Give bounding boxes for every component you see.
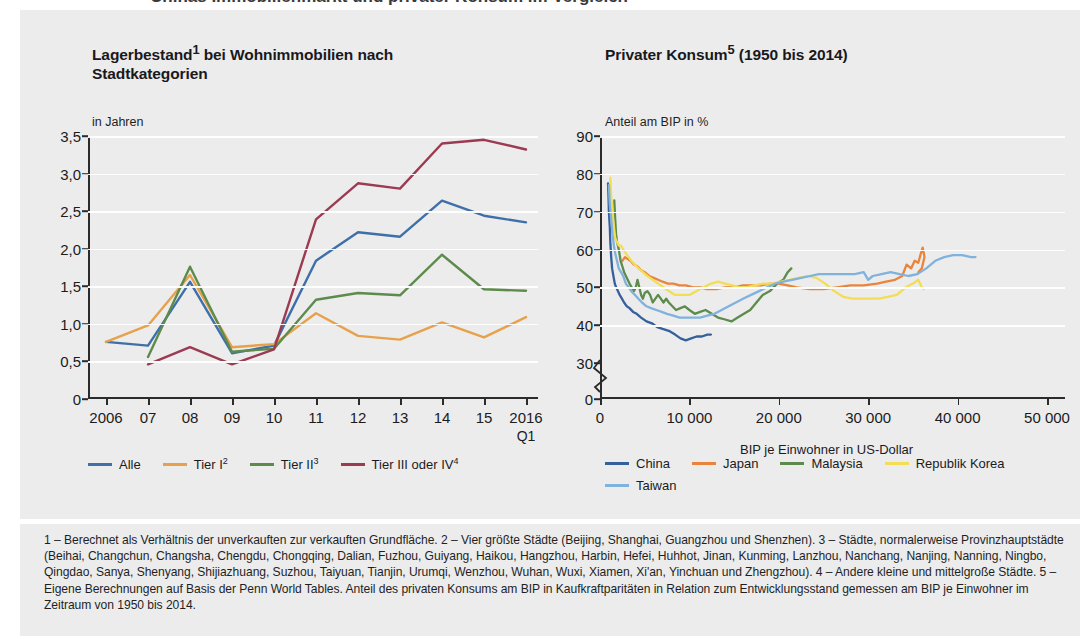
- x-tick-mark: [868, 399, 870, 405]
- legend-label: Tier I2: [194, 456, 228, 472]
- x-tick-mark: [600, 399, 602, 405]
- y-tick-label: 2,0: [60, 240, 81, 257]
- cut-off-header-remnant: Chinas Immobilienmarkt und privater Kons…: [0, 0, 1083, 8]
- x-tick-mark: [484, 399, 486, 405]
- legend-item-republikkorea[interactable]: Republik Korea: [885, 456, 1005, 471]
- legend-label: Republik Korea: [916, 456, 1005, 471]
- chart-lagerbestand: Lagerbestand1 bei Wohnimmobilien nach St…: [20, 10, 560, 522]
- gridline: [600, 174, 1065, 176]
- legend-label: Malaysia: [811, 456, 862, 471]
- y-tick-mark: [82, 248, 88, 250]
- legend-item-china[interactable]: China: [605, 456, 670, 471]
- left-chart-title: Lagerbestand1 bei Wohnimmobilien nach St…: [92, 40, 512, 83]
- x-tick-label: 2016: [509, 409, 542, 426]
- x-tick-label: 12: [350, 409, 367, 426]
- y-tick-mark: [82, 285, 88, 287]
- y-tick-label: 90: [576, 128, 593, 145]
- y-tick-label: 40: [576, 317, 593, 334]
- x-tick-mark: [232, 399, 234, 405]
- left-series-lines: [88, 136, 538, 399]
- y-tick-label: 3,5: [60, 128, 81, 145]
- left-legend: AlleTier I2Tier II3Tier III oder IV4: [88, 456, 548, 479]
- x-tick-label: 40 000: [935, 409, 981, 426]
- gridline: [88, 286, 538, 288]
- left-x-axis: [88, 397, 538, 399]
- gridline: [88, 324, 538, 326]
- y-tick-label: 0,5: [60, 353, 81, 370]
- x-tick-mark: [689, 399, 691, 405]
- footnotes-text: 1 – Berechnet als Verhältnis der unverka…: [44, 532, 1064, 613]
- series-line-malaysia: [614, 200, 791, 321]
- gridline: [88, 136, 538, 138]
- x-tick-mark: [148, 399, 150, 405]
- legend-swatch-icon: [88, 463, 112, 466]
- x-tick-label: 2006: [89, 409, 122, 426]
- x-tick-label: 50 000: [1024, 409, 1070, 426]
- x-tick-mark: [190, 399, 192, 405]
- x-tick-label: 09: [224, 409, 241, 426]
- legend-item-taiwan[interactable]: Taiwan: [605, 478, 676, 493]
- x-tick-label: 13: [392, 409, 409, 426]
- chart-privater-konsum: Privater Konsum5 (1950 bis 2014) Anteil …: [560, 10, 1080, 522]
- legend-swatch-icon: [341, 463, 365, 466]
- gridline: [88, 361, 538, 363]
- legend-swatch-icon: [885, 462, 909, 465]
- x-tick-mark: [106, 399, 108, 405]
- right-y-axis-unit: Anteil am BIP in %: [605, 115, 708, 129]
- x-tick-label: 20 000: [756, 409, 802, 426]
- legend-item-tierii[interactable]: Tier II3: [250, 456, 319, 472]
- y-tick-mark: [82, 398, 88, 400]
- legend-item-tieri[interactable]: Tier I2: [163, 456, 228, 472]
- x-tick-label: 15: [476, 409, 493, 426]
- y-tick-label: 70: [576, 203, 593, 220]
- x-tick-mark: [779, 399, 781, 405]
- x-tick-label: 11: [308, 409, 324, 426]
- legend-item-tieriiioderiv[interactable]: Tier III oder IV4: [341, 456, 459, 472]
- x-tick-mark: [958, 399, 960, 405]
- legend-swatch-icon: [163, 463, 187, 466]
- x-tick-mark: [274, 399, 276, 405]
- legend-label: Tier II3: [281, 456, 319, 472]
- x-tick-sublabel: Q1: [517, 428, 536, 444]
- x-tick-mark: [400, 399, 402, 405]
- y-tick-mark: [594, 249, 600, 251]
- y-tick-label: 2,5: [60, 203, 81, 220]
- gridline: [88, 211, 538, 213]
- y-tick-label: 60: [576, 241, 593, 258]
- legend-swatch-icon: [692, 462, 716, 465]
- gridline: [600, 325, 1065, 327]
- right-series-lines: [600, 136, 1065, 399]
- legend-label: Taiwan: [636, 478, 676, 493]
- y-tick-label: 0: [73, 391, 81, 408]
- gridline: [600, 136, 1065, 138]
- legend-label: Japan: [723, 456, 758, 471]
- x-tick-label: 10 000: [666, 409, 712, 426]
- y-tick-mark: [594, 173, 600, 175]
- x-tick-label: 30 000: [845, 409, 891, 426]
- legend-label: China: [636, 456, 670, 471]
- y-tick-mark: [82, 210, 88, 212]
- y-tick-mark: [82, 361, 88, 363]
- y-tick-mark: [594, 135, 600, 137]
- x-tick-label: 0: [596, 409, 604, 426]
- y-tick-label: 50: [576, 279, 593, 296]
- legend-swatch-icon: [780, 462, 804, 465]
- gridline: [88, 174, 538, 176]
- gridline: [600, 287, 1065, 289]
- y-tick-label: 3,0: [60, 165, 81, 182]
- y-tick-mark: [594, 211, 600, 213]
- x-tick-label: 14: [434, 409, 451, 426]
- right-legend: ChinaJapanMalaysiaRepublik KoreaTaiwan: [605, 456, 1065, 500]
- legend-item-malaysia[interactable]: Malaysia: [780, 456, 862, 471]
- gridline: [600, 250, 1065, 252]
- left-plot-area: 00,51,01,52,02,53,03,5 20060708091011121…: [88, 136, 538, 399]
- x-tick-mark: [442, 399, 444, 405]
- legend-item-alle[interactable]: Alle: [88, 457, 141, 472]
- y-tick-label: 0: [585, 391, 593, 408]
- y-tick-label: 1,5: [60, 278, 81, 295]
- right-x-axis: [600, 397, 1065, 399]
- right-x-axis-title: BIP je Einwohner in US-Dollar: [740, 442, 913, 457]
- legend-item-japan[interactable]: Japan: [692, 456, 758, 471]
- x-tick-mark: [1047, 399, 1049, 405]
- y-tick-mark: [82, 135, 88, 137]
